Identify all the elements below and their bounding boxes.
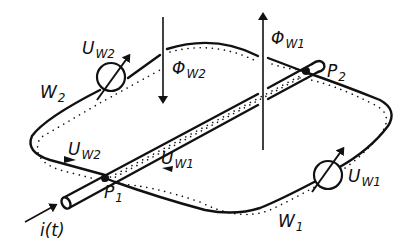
- label-u-w1-right: UW1: [348, 168, 381, 188]
- diagram-graphics: [0, 0, 418, 248]
- label-current: i(t): [40, 222, 65, 239]
- voltage-source-uw2: [97, 57, 128, 100]
- label-u-w2-top: UW2: [82, 40, 115, 60]
- voltage-source-uw1: [312, 150, 342, 192]
- coupling-diagram: UW2 ΦW2 ΦW1 P2 W2 UW2 P1 UW1 UW1 W1 i(t): [0, 0, 418, 248]
- label-p2: P2: [327, 63, 346, 83]
- label-u-w1-bottom: UW1: [161, 150, 194, 170]
- junction-p2: [302, 67, 310, 75]
- label-w2: W2: [40, 84, 65, 104]
- label-w1: W1: [278, 213, 303, 233]
- junction-p1: [101, 174, 109, 182]
- label-u-w2-bottom: UW2: [68, 141, 101, 161]
- label-phi-w1: ΦW1: [271, 30, 305, 50]
- label-p1: P1: [104, 184, 123, 204]
- label-phi-w2: ΦW2: [172, 60, 206, 80]
